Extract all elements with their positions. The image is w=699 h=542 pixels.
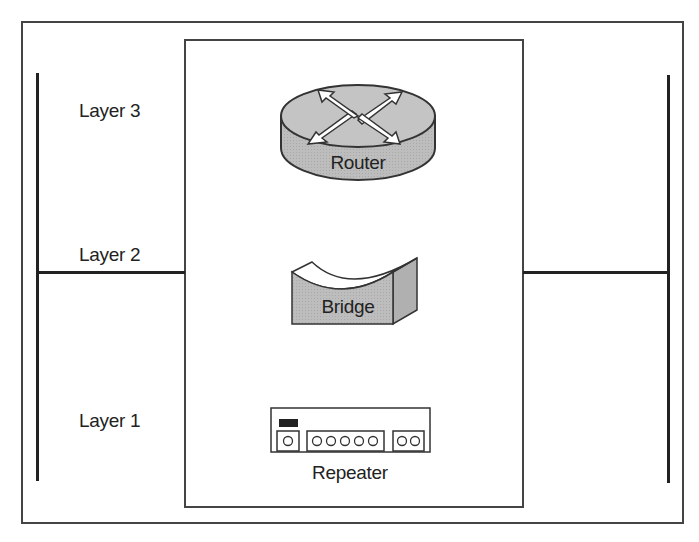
layer-1-label: Layer 1 <box>79 410 140 432</box>
right-connector-line <box>523 271 669 274</box>
repeater-label: Repeater <box>300 462 400 484</box>
repeater-icon <box>270 407 432 455</box>
bridge-label: Bridge <box>308 296 388 318</box>
layer-3-label: Layer 3 <box>79 100 140 122</box>
left-segment-line <box>36 73 39 481</box>
layer-2-label: Layer 2 <box>79 244 140 266</box>
router-label: Router <box>318 152 398 174</box>
left-connector-line <box>36 271 185 274</box>
right-segment-line <box>667 75 670 483</box>
